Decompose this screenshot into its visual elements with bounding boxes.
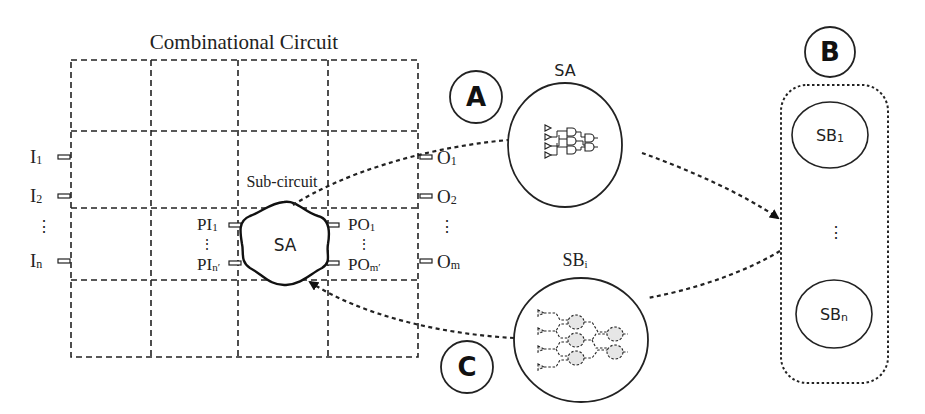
subcircuit-label: Sub-circuit xyxy=(246,173,318,190)
sb-candidate-n: SBn xyxy=(796,280,872,348)
step-b-badge: B xyxy=(805,27,855,77)
connector-subcircuit-to-sa xyxy=(293,140,508,205)
sbi-node xyxy=(514,278,648,402)
subcircuit-name: SA xyxy=(274,235,297,255)
circuit-title: Combinational Circuit xyxy=(150,30,339,54)
sa-node-label: SA xyxy=(554,61,575,80)
step-a-badge: A xyxy=(450,71,502,123)
output-pin-1 xyxy=(420,155,432,159)
input-label-n: In xyxy=(30,250,42,271)
input-label-1: I1 xyxy=(30,146,42,167)
sb-set-ellipsis: ⋮ xyxy=(828,224,844,241)
primary-outputs: O1 O2 ⋮ Om xyxy=(420,147,461,272)
svg-text:A: A xyxy=(466,82,486,112)
subcircuit-input-pin-1 xyxy=(229,223,241,227)
svg-text:B: B xyxy=(820,37,840,67)
sb-candidate-set: SB1 ⋮ SBn xyxy=(781,85,888,383)
input-pin-1 xyxy=(58,155,70,159)
sb-candidate-1: SB1 xyxy=(792,102,868,168)
pi-ellipsis: ⋮ xyxy=(200,237,214,252)
po-label-1: PO1 xyxy=(348,215,375,234)
sbi-node-label: SBi xyxy=(562,250,587,270)
connector-sb-set-to-sbi xyxy=(648,251,780,298)
combinational-circuit-grid xyxy=(71,60,418,357)
sa-node xyxy=(508,83,622,207)
po-ellipsis: ⋮ xyxy=(357,237,371,252)
output-label-2: O2 xyxy=(437,186,457,207)
subcircuit-replacement-diagram: Combinational Circuit I1 I2 ⋮ In O1 O2 ⋮… xyxy=(0,0,925,414)
input-ellipsis: ⋮ xyxy=(36,218,52,235)
input-label-2: I2 xyxy=(30,185,42,206)
pi-label-n: PIn′ xyxy=(197,255,220,274)
output-ellipsis: ⋮ xyxy=(439,218,455,235)
step-c-badge: C xyxy=(441,341,493,393)
pi-label-1: PI1 xyxy=(197,215,218,234)
subcircuit-input-pin-n xyxy=(229,261,241,265)
input-pin-2 xyxy=(58,194,70,198)
primary-inputs: I1 I2 ⋮ In xyxy=(30,146,70,271)
svg-text:C: C xyxy=(457,352,476,382)
connector-sa-to-sb-set xyxy=(642,153,778,218)
connector-sbi-to-subcircuit xyxy=(310,282,514,338)
subcircuit-output-pin-m xyxy=(327,261,339,265)
input-pin-n xyxy=(58,259,70,263)
output-label-m: Om xyxy=(437,251,461,272)
output-pin-m xyxy=(420,259,432,263)
output-pin-2 xyxy=(420,194,432,198)
po-label-m: POm′ xyxy=(348,255,381,274)
